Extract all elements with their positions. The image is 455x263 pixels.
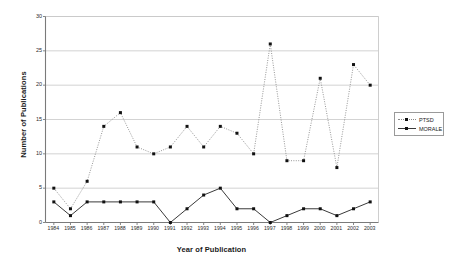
y-tick-label: 25 bbox=[28, 48, 42, 54]
data-point bbox=[136, 200, 139, 203]
gridlines bbox=[46, 17, 379, 189]
y-axis-tick-labels: 051015202530 bbox=[26, 0, 42, 263]
data-point bbox=[285, 214, 288, 217]
y-tick-label: 30 bbox=[28, 14, 42, 20]
data-point bbox=[169, 221, 172, 224]
data-point bbox=[285, 159, 288, 162]
y-tick-label: 20 bbox=[28, 82, 42, 88]
data-point bbox=[269, 221, 272, 224]
data-point bbox=[152, 152, 155, 155]
data-point bbox=[252, 152, 255, 155]
data-point bbox=[335, 166, 338, 169]
data-point bbox=[102, 125, 105, 128]
data-point bbox=[269, 42, 272, 45]
data-point bbox=[235, 207, 238, 210]
data-point bbox=[369, 200, 372, 203]
data-point bbox=[202, 194, 205, 197]
data-point bbox=[136, 145, 139, 148]
data-point bbox=[52, 187, 55, 190]
data-point bbox=[52, 200, 55, 203]
data-point bbox=[352, 207, 355, 210]
series-line-morale bbox=[54, 188, 370, 222]
x-tick-label: 2003 bbox=[359, 226, 381, 231]
data-point bbox=[219, 125, 222, 128]
legend-item-morale: MORALE bbox=[397, 124, 441, 133]
data-point bbox=[369, 84, 372, 87]
series-ptsd bbox=[52, 42, 371, 210]
legend-label-ptsd: PTSD bbox=[419, 117, 434, 123]
chart-legend: PTSD MORALE bbox=[394, 112, 444, 136]
x-axis-tick-labels: 1984198519861987198819891990199119921993… bbox=[45, 226, 378, 238]
y-tick-label: 15 bbox=[28, 117, 42, 123]
series-line-ptsd bbox=[54, 44, 370, 209]
data-point bbox=[202, 145, 205, 148]
data-point bbox=[319, 77, 322, 80]
data-point bbox=[102, 200, 105, 203]
data-point bbox=[352, 63, 355, 66]
data-point bbox=[169, 145, 172, 148]
y-tick-label: 0 bbox=[28, 220, 42, 226]
legend-line-swatch-ptsd bbox=[397, 116, 417, 123]
series-morale bbox=[52, 187, 371, 224]
data-point bbox=[119, 111, 122, 114]
data-point bbox=[69, 207, 72, 210]
data-point bbox=[69, 214, 72, 217]
legend-line-swatch-morale bbox=[397, 125, 417, 132]
data-point bbox=[86, 180, 89, 183]
data-point bbox=[302, 207, 305, 210]
data-point bbox=[319, 207, 322, 210]
legend-item-ptsd: PTSD bbox=[397, 115, 441, 124]
y-tick-label: 10 bbox=[28, 151, 42, 157]
data-point bbox=[235, 132, 238, 135]
data-point bbox=[119, 200, 122, 203]
data-point bbox=[86, 200, 89, 203]
data-point bbox=[302, 159, 305, 162]
legend-label-morale: MORALE bbox=[419, 126, 442, 132]
y-tick-label: 5 bbox=[28, 185, 42, 191]
plot-area bbox=[0, 0, 455, 263]
data-point bbox=[186, 207, 189, 210]
data-point bbox=[186, 125, 189, 128]
publications-line-chart: Number of Publications Year of Publicati… bbox=[0, 0, 455, 263]
data-point bbox=[252, 207, 255, 210]
data-point bbox=[219, 187, 222, 190]
data-point bbox=[152, 200, 155, 203]
data-point bbox=[335, 214, 338, 217]
x-axis-title: Year of Publication bbox=[45, 245, 378, 254]
